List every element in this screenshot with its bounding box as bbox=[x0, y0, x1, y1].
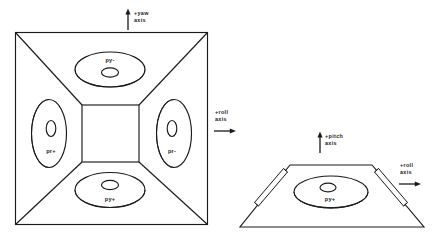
diagram-canvas: +yaw axis py- bbox=[0, 0, 436, 239]
plan-port-right-label: pr- bbox=[168, 148, 176, 154]
roll-axis-indicator-left: +roll axis bbox=[214, 109, 236, 134]
plan-port-bottom-label: py+ bbox=[105, 196, 116, 202]
yaw-arrowhead-icon bbox=[125, 9, 130, 15]
pitch-axis-label-line1: +pitch bbox=[325, 133, 343, 139]
plan-port-top-hole bbox=[102, 68, 119, 77]
roll-right-arrowhead-icon bbox=[415, 181, 421, 186]
plan-port-right-hole bbox=[167, 121, 177, 137]
yaw-axis-label-line2: axis bbox=[134, 17, 146, 23]
plan-port-left-label: pr+ bbox=[46, 148, 56, 154]
yaw-axis-indicator: +yaw axis bbox=[125, 9, 149, 31]
roll-left-label-line2: axis bbox=[215, 116, 227, 122]
plan-port-bottom-hole bbox=[102, 180, 119, 189]
roll-left-arrowhead-icon bbox=[230, 128, 236, 133]
technical-diagram: +yaw axis py- bbox=[0, 0, 436, 239]
plan-view: py- pr+ pr- py+ bbox=[16, 33, 208, 225]
pitch-axis-label-line2: axis bbox=[325, 140, 337, 146]
side-view: py+ bbox=[240, 165, 424, 227]
side-port-hole bbox=[320, 183, 336, 192]
plan-port-left-hole bbox=[46, 121, 56, 137]
yaw-axis-label-line1: +yaw bbox=[134, 10, 149, 16]
roll-left-label-line1: +roll bbox=[215, 109, 228, 115]
side-port-center: py+ bbox=[294, 176, 368, 208]
pitch-axis-indicator: +pitch axis bbox=[317, 132, 343, 154]
pitch-arrowhead-icon bbox=[317, 132, 322, 138]
roll-axis-indicator-right: +roll axis bbox=[399, 162, 421, 187]
plan-inner-square bbox=[82, 105, 139, 162]
side-port-label: py+ bbox=[325, 196, 336, 202]
plan-port-top-label: py- bbox=[105, 57, 114, 63]
roll-right-label-line2: axis bbox=[400, 169, 412, 175]
roll-right-label-line1: +roll bbox=[400, 162, 413, 168]
